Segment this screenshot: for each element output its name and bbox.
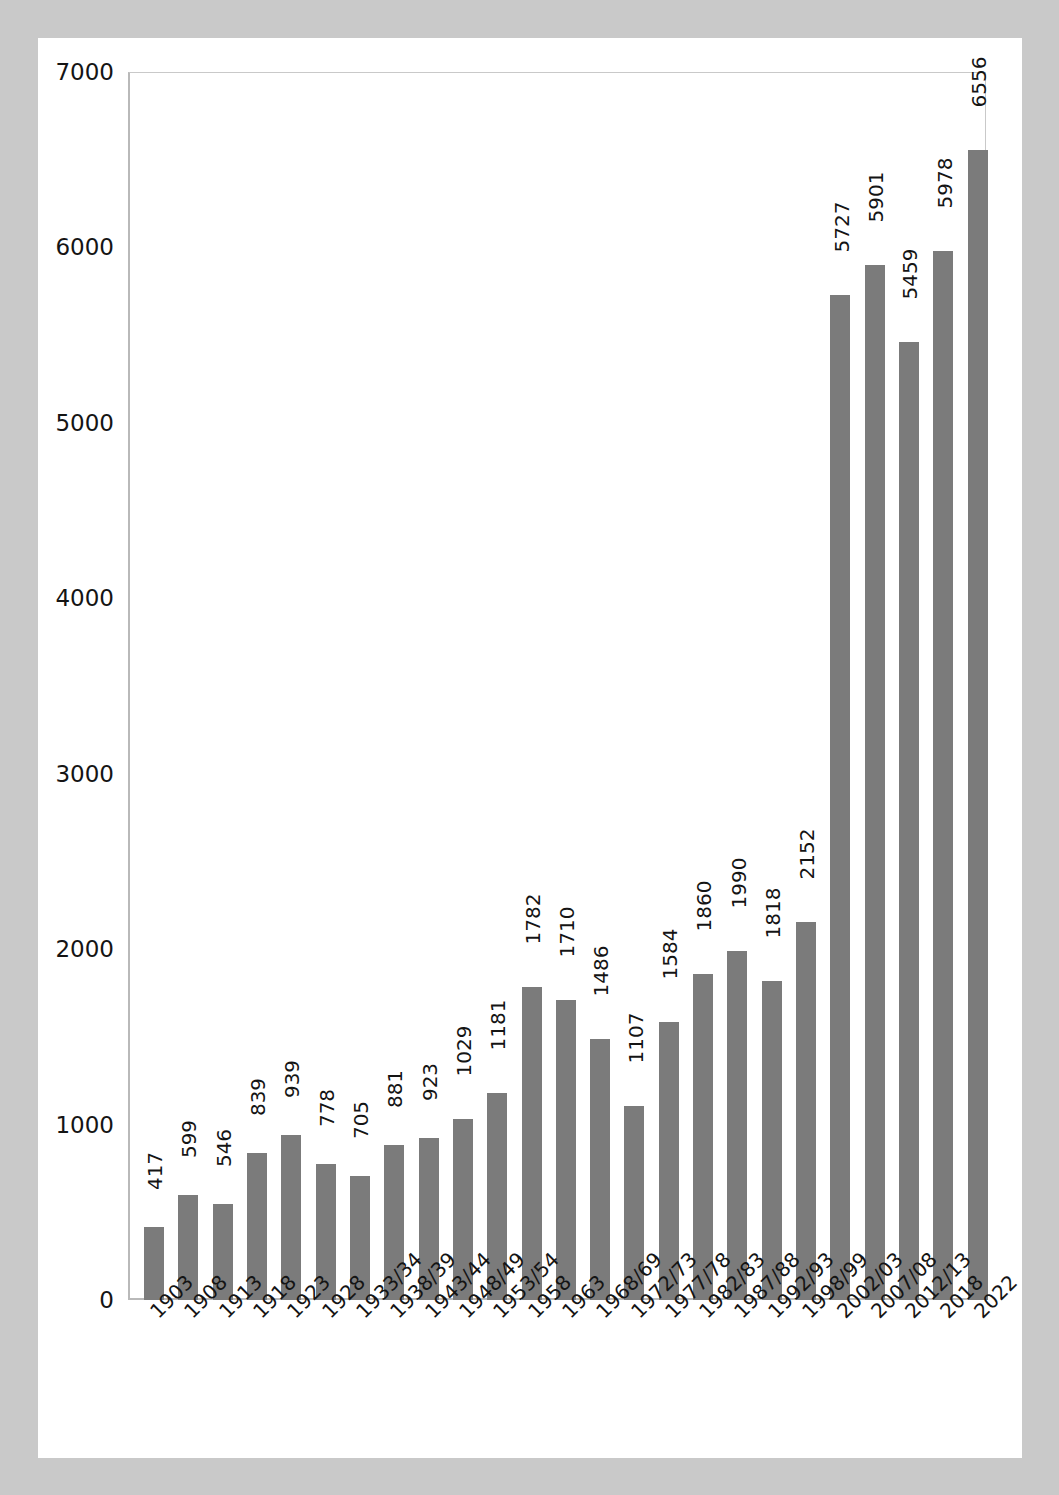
bar-group: 1710: [550, 72, 584, 1300]
bar: [830, 295, 850, 1300]
bar-group: 599: [172, 72, 206, 1300]
bar: [796, 922, 816, 1300]
bar-group: 1181: [481, 72, 515, 1300]
x-axis-tick-label: 2007/08: [866, 1306, 883, 1323]
bar-value-label: 1181: [486, 999, 510, 1050]
bar-value-label: 1584: [658, 929, 682, 980]
bar-group: 5727: [824, 72, 858, 1300]
x-axis-tick-label: 1903: [145, 1306, 162, 1323]
bar-value-label: 599: [177, 1120, 201, 1158]
bar: [590, 1039, 610, 1300]
bar-value-label: 839: [246, 1078, 270, 1116]
x-axis-tick-label: 1928: [317, 1306, 334, 1323]
y-axis-tick-label: 6000: [55, 234, 114, 260]
bar: [968, 150, 988, 1300]
bar-value-label: 417: [143, 1152, 167, 1190]
x-axis-tick-label: 1913: [214, 1306, 231, 1323]
bar-group: 5978: [927, 72, 961, 1300]
y-axis: 01000200030004000500060007000: [38, 38, 128, 1458]
y-axis-tick-label: 1000: [55, 1112, 114, 1138]
bar-group: 6556: [962, 72, 996, 1300]
bar-group: 5901: [859, 72, 893, 1300]
bar-group: 1860: [687, 72, 721, 1300]
bar-value-label: 5727: [830, 202, 854, 253]
x-axis: 1903190819131918192319281933/341938/3919…: [128, 1306, 986, 1456]
bar-group: 1584: [653, 72, 687, 1300]
bar-value-label: 778: [315, 1088, 339, 1126]
bar-value-label: 923: [418, 1063, 442, 1101]
x-axis-tick-label: 1992/93: [763, 1306, 780, 1323]
bars-container: 4175995468399397787058819231029118117821…: [128, 72, 986, 1300]
bar-value-label: 705: [349, 1101, 373, 1139]
x-axis-tick-label: 1938/39: [385, 1306, 402, 1323]
bar: [522, 987, 542, 1300]
x-axis-tick-label: 1923: [282, 1306, 299, 1323]
x-axis-tick-label: 2022: [969, 1306, 986, 1323]
bar: [727, 951, 747, 1300]
bar-value-label: 881: [383, 1070, 407, 1108]
x-axis-tick-label: 1987/88: [729, 1306, 746, 1323]
bar-value-label: 1107: [624, 1012, 648, 1063]
bar: [899, 342, 919, 1300]
y-axis-tick-label: 5000: [55, 410, 114, 436]
x-axis-tick-label: 1948/49: [454, 1306, 471, 1323]
y-axis-tick-label: 4000: [55, 585, 114, 611]
bar-group: 1782: [516, 72, 550, 1300]
x-axis-tick-label: 1943/44: [420, 1306, 437, 1323]
bar-chart: 01000200030004000500060007000 4175995468…: [38, 38, 1022, 1458]
bar-value-label: 939: [280, 1060, 304, 1098]
x-axis-tick-label: 1982/83: [694, 1306, 711, 1323]
bar-group: 923: [413, 72, 447, 1300]
x-axis-tick-label: 2002/03: [832, 1306, 849, 1323]
bar: [865, 265, 885, 1300]
bar-group: 1029: [447, 72, 481, 1300]
bar-group: 839: [241, 72, 275, 1300]
bar-value-label: 6556: [967, 56, 991, 107]
bar-value-label: 2152: [795, 829, 819, 880]
x-axis-tick-label: 1972/73: [626, 1306, 643, 1323]
bar: [556, 1000, 576, 1300]
bar-group: 1486: [584, 72, 618, 1300]
bar-value-label: 5459: [898, 249, 922, 300]
bar: [933, 251, 953, 1300]
y-axis-tick-label: 2000: [55, 936, 114, 962]
bar-value-label: 1029: [452, 1026, 476, 1077]
bar-group: 1107: [618, 72, 652, 1300]
bar-group: 2152: [790, 72, 824, 1300]
x-axis-tick-label: 1977/78: [660, 1306, 677, 1323]
x-axis-tick-label: 2018: [935, 1306, 952, 1323]
bar-group: 778: [310, 72, 344, 1300]
y-axis-tick-label: 7000: [55, 59, 114, 85]
x-axis-tick-label: 1968/69: [591, 1306, 608, 1323]
x-axis-tick-label: 1963: [557, 1306, 574, 1323]
bar-value-label: 1818: [761, 888, 785, 939]
bar: [762, 981, 782, 1300]
x-axis-tick-label: 1953/54: [488, 1306, 505, 1323]
bar-value-label: 5978: [933, 158, 957, 209]
bar-value-label: 1860: [692, 880, 716, 931]
bar-value-label: 546: [212, 1129, 236, 1167]
y-axis-tick-label: 3000: [55, 761, 114, 787]
bar-group: 705: [344, 72, 378, 1300]
chart-page: 01000200030004000500060007000 4175995468…: [38, 38, 1022, 1458]
bar-value-label: 1486: [589, 946, 613, 997]
bar-group: 417: [138, 72, 172, 1300]
x-axis-tick-label: 1933/34: [351, 1306, 368, 1323]
x-axis-tick-label: 1908: [179, 1306, 196, 1323]
bar-value-label: 1990: [727, 857, 751, 908]
bar-group: 5459: [893, 72, 927, 1300]
bar-value-label: 1710: [555, 907, 579, 958]
x-axis-tick-label: 1998/99: [797, 1306, 814, 1323]
x-axis-tick-label: 1918: [248, 1306, 265, 1323]
bar-group: 1818: [756, 72, 790, 1300]
bar-value-label: 1782: [521, 894, 545, 945]
bar: [693, 974, 713, 1300]
bar-value-label: 5901: [864, 171, 888, 222]
x-axis-tick-label: 2012/13: [900, 1306, 917, 1323]
bar-group: 1990: [721, 72, 755, 1300]
bar-group: 881: [378, 72, 412, 1300]
bar-group: 939: [275, 72, 309, 1300]
x-axis-tick-label: 1958: [523, 1306, 540, 1323]
bar-group: 546: [207, 72, 241, 1300]
y-axis-tick-label: 0: [99, 1287, 114, 1313]
